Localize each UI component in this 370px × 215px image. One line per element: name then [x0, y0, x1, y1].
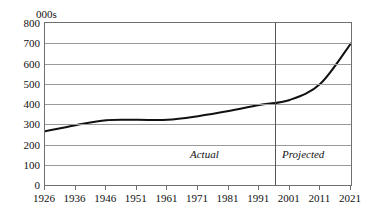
annotation-actual: Actual — [190, 148, 219, 160]
gridline — [45, 124, 351, 125]
x-axis-tick-label: 2021 — [328, 192, 370, 204]
y-axis-tick-label: 700 — [0, 38, 40, 49]
y-axis-tick-label: 800 — [0, 18, 40, 29]
annotation-projected: Projected — [282, 148, 324, 160]
y-axis-tick-label: 100 — [0, 160, 40, 171]
y-axis-tick-label: 0 — [0, 180, 40, 191]
x-axis-tick — [136, 186, 137, 190]
y-axis-tick-labels: 8007006005004003002001000 — [0, 22, 40, 186]
gridline — [45, 84, 351, 85]
y-axis-tick-label: 600 — [0, 59, 40, 70]
gridline — [45, 145, 351, 146]
x-axis-tick — [228, 186, 229, 190]
plot-area — [44, 22, 352, 186]
x-axis-tick — [350, 186, 351, 190]
y-axis-tick-label: 300 — [0, 119, 40, 130]
y-axis-tick-label: 200 — [0, 140, 40, 151]
y-axis-tick-label: 500 — [0, 79, 40, 90]
x-axis-tick — [319, 186, 320, 190]
x-axis-tick — [75, 186, 76, 190]
x-axis-tick — [44, 186, 45, 190]
x-axis-tick — [197, 186, 198, 190]
x-axis-tick-labels: 1926193619461951196119711981199120012011… — [44, 186, 352, 212]
gridline — [45, 43, 351, 44]
x-axis-tick — [289, 186, 290, 190]
x-axis-tick — [166, 186, 167, 190]
actual-projected-divider — [275, 23, 276, 185]
gridline — [45, 104, 351, 105]
gridline — [45, 64, 351, 65]
y-axis-tick-label: 400 — [0, 99, 40, 110]
x-axis-tick — [258, 186, 259, 190]
line-chart: 000s 8007006005004003002001000 Actual Pr… — [0, 0, 370, 215]
x-axis-tick — [105, 186, 106, 190]
gridline — [45, 165, 351, 166]
